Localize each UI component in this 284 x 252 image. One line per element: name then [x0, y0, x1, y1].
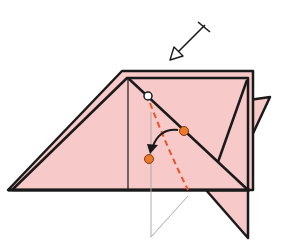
reference-point-orange-a	[180, 127, 189, 136]
diagram-canvas	[0, 0, 284, 252]
origami-diagram: Origami fold step	[0, 0, 284, 252]
turn-over-arrow-icon	[170, 22, 210, 60]
lower-right-flap	[206, 190, 248, 238]
front-layer	[8, 78, 250, 190]
reference-point-orange-b	[145, 155, 154, 164]
reference-point-white	[144, 92, 152, 100]
